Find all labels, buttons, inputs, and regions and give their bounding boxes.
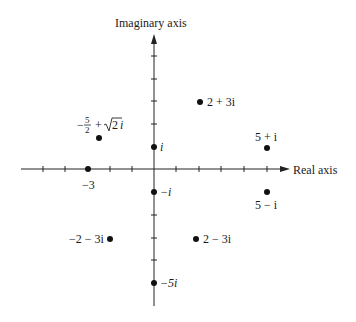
point-5-minus-i: 5 − i — [255, 189, 278, 212]
point-2-plus-3i-label: 2 + 3i — [207, 95, 236, 109]
sqrt-radicand: 2 — [112, 118, 118, 132]
imaginary-axis: Imaginary axis — [115, 16, 187, 306]
point-minus-2-minus-3i: −2 − 3i — [69, 232, 113, 246]
point-minus-5i: −5i — [151, 276, 177, 290]
point-minus-2-minus-3i-label: −2 − 3i — [69, 232, 105, 246]
label-minus-sign: − — [77, 118, 84, 132]
fraction-denominator: 2 — [85, 125, 90, 135]
complex-plane-diagram: Real axis Imaginary axis i −i −5i −3 2 +… — [0, 0, 356, 322]
point-5-minus-i-label: 5 − i — [255, 198, 278, 212]
point-i-label: i — [160, 140, 163, 154]
real-axis-arrow-icon — [280, 166, 290, 172]
fraction-sqrt-label: − 5 2 + 2 i — [77, 115, 123, 135]
point-2-minus-3i-label: 2 − 3i — [203, 232, 232, 246]
point-5-plus-i: 5 + i — [255, 130, 278, 151]
point-minus-5i-label: −5i — [160, 276, 177, 290]
real-axis-label: Real axis — [293, 163, 338, 177]
point-minus-3-label: −3 — [82, 178, 95, 192]
point-2-minus-3i: 2 − 3i — [193, 232, 232, 246]
fraction-numerator: 5 — [85, 115, 90, 125]
imaginary-axis-label: Imaginary axis — [115, 16, 187, 30]
point-2-plus-3i: 2 + 3i — [197, 95, 236, 109]
label-plus-sign: + — [95, 118, 102, 132]
imaginary-axis-arrow-icon — [151, 34, 157, 44]
point-5-plus-i-label: 5 + i — [255, 130, 278, 144]
point-minus-i-label: −i — [160, 185, 171, 199]
point-i: i — [151, 140, 163, 154]
sqrt-imaginary-unit: i — [120, 118, 123, 132]
real-axis: Real axis — [21, 163, 338, 177]
point-minus-3: −3 — [82, 166, 95, 192]
point-minus-5-over-2-plus-sqrt2-i: − 5 2 + 2 i — [77, 115, 123, 141]
